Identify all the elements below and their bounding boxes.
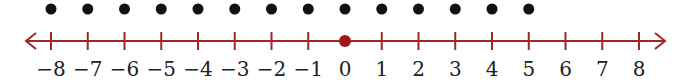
plotted-dot <box>523 4 534 15</box>
tick-label: 3 <box>435 58 475 80</box>
plotted-dot <box>193 4 204 15</box>
plotted-dot <box>450 4 461 15</box>
tick-label: 5 <box>509 58 549 80</box>
tick-label: 8 <box>619 58 659 80</box>
plotted-dot <box>46 4 57 15</box>
plotted-dot <box>266 4 277 15</box>
plotted-dot <box>82 4 93 15</box>
tick-label: −3 <box>215 58 255 80</box>
plotted-dot <box>303 4 314 15</box>
plotted-dot <box>413 4 424 15</box>
tick-label: −5 <box>141 58 181 80</box>
tick-label: −2 <box>252 58 292 80</box>
plotted-dot <box>340 4 351 15</box>
tick-label: 7 <box>582 58 622 80</box>
tick-label: −6 <box>105 58 145 80</box>
tick-label: 1 <box>362 58 402 80</box>
plotted-dot <box>156 4 167 15</box>
tick-label: −1 <box>288 58 328 80</box>
plotted-dot <box>487 4 498 15</box>
highlighted-point <box>339 35 351 47</box>
tick-label: 0 <box>325 58 365 80</box>
tick-label: −8 <box>31 58 71 80</box>
tick-label: −7 <box>68 58 108 80</box>
plotted-dot <box>229 4 240 15</box>
tick-label: 6 <box>546 58 586 80</box>
plotted-dot <box>119 4 130 15</box>
tick-label: −4 <box>178 58 218 80</box>
plotted-dot <box>376 4 387 15</box>
tick-label: 2 <box>399 58 439 80</box>
tick-label: 4 <box>472 58 512 80</box>
